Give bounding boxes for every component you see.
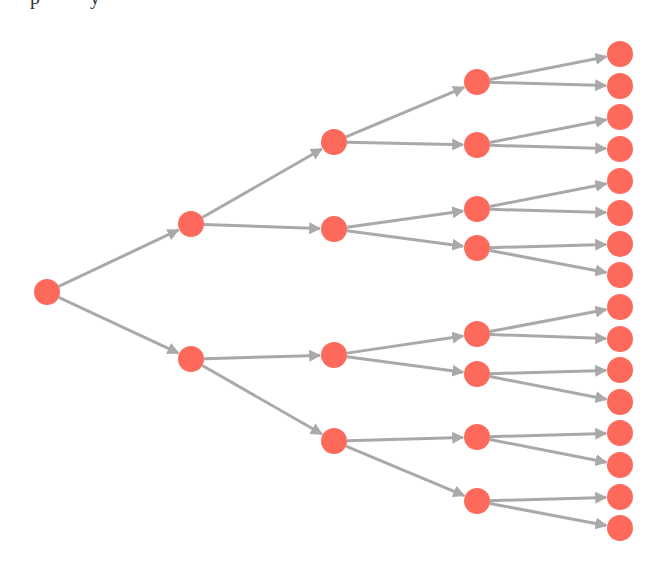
edge-arrow bbox=[490, 184, 607, 207]
tree-node bbox=[464, 488, 490, 514]
leaf-node bbox=[607, 200, 633, 226]
edge-arrow bbox=[490, 334, 606, 338]
edge-arrow bbox=[490, 433, 606, 436]
leaf-node bbox=[607, 294, 633, 320]
edge-arrow bbox=[490, 244, 606, 247]
tree-node bbox=[321, 428, 347, 454]
tree-node bbox=[464, 132, 490, 158]
edge-arrow bbox=[204, 355, 320, 358]
edge-arrow bbox=[59, 230, 179, 286]
edge-arrow bbox=[347, 211, 463, 227]
leaf-node bbox=[607, 452, 633, 478]
tree-node bbox=[464, 361, 490, 387]
leaf-node bbox=[607, 104, 633, 130]
tree-node bbox=[464, 321, 490, 347]
node-group bbox=[34, 41, 633, 541]
leaf-node bbox=[607, 420, 633, 446]
edge-arrow bbox=[347, 142, 463, 144]
tree-node bbox=[464, 235, 490, 261]
leaf-node bbox=[607, 231, 633, 257]
edge-arrow bbox=[346, 87, 464, 137]
edge-arrow bbox=[490, 310, 606, 332]
leaf-node bbox=[607, 357, 633, 383]
tree-node bbox=[464, 424, 490, 450]
tree-node bbox=[321, 342, 347, 368]
edge-arrow bbox=[490, 503, 606, 525]
edge-arrow bbox=[347, 336, 463, 353]
leaf-node bbox=[607, 136, 633, 162]
edge-group bbox=[59, 57, 607, 526]
tree-diagram bbox=[0, 0, 671, 569]
leaf-node bbox=[607, 168, 633, 194]
edge-arrow bbox=[490, 209, 606, 212]
edge-arrow bbox=[490, 120, 607, 143]
tree-node bbox=[464, 196, 490, 222]
leaf-node bbox=[607, 515, 633, 541]
edge-arrow bbox=[490, 370, 606, 373]
leaf-node bbox=[607, 484, 633, 510]
edge-arrow bbox=[347, 231, 463, 246]
edge-arrow bbox=[347, 357, 463, 372]
edge-arrow bbox=[347, 437, 463, 440]
edge-arrow bbox=[490, 250, 606, 272]
edge-arrow bbox=[490, 497, 606, 500]
edge-arrow bbox=[490, 376, 607, 399]
edge-arrow bbox=[490, 145, 606, 148]
edge-arrow bbox=[59, 297, 179, 353]
tree-node bbox=[464, 69, 490, 95]
root-node bbox=[34, 279, 60, 305]
leaf-node bbox=[607, 389, 633, 415]
tree-node bbox=[178, 346, 204, 372]
leaf-node bbox=[607, 41, 633, 67]
tree-node bbox=[321, 216, 347, 242]
edge-arrow bbox=[490, 57, 607, 80]
edge-arrow bbox=[490, 439, 607, 462]
edge-arrow bbox=[202, 365, 322, 434]
edge-arrow bbox=[490, 82, 606, 85]
tree-node bbox=[178, 211, 204, 237]
leaf-node bbox=[607, 262, 633, 288]
tree-node bbox=[321, 129, 347, 155]
edge-arrow bbox=[346, 446, 464, 496]
leaf-node bbox=[607, 73, 633, 99]
edge-arrow bbox=[204, 224, 320, 228]
edge-arrow bbox=[202, 149, 322, 218]
leaf-node bbox=[607, 326, 633, 352]
